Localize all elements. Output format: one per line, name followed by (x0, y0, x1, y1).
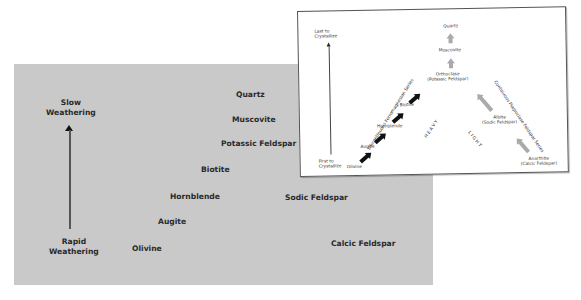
last-to-crystallize-label: Last to Crystallize (314, 28, 337, 39)
mineral-biotite: Biotite (201, 165, 230, 174)
black-arrow-icon (359, 154, 369, 164)
bowens-reaction-series-inset: Last to Crystallize First to Crystallize… (297, 6, 569, 177)
gray-arrow-icon (518, 140, 530, 153)
mineral-olivine: Olivine (347, 164, 362, 170)
rapid-weathering-label: Rapid Weathering (49, 237, 99, 257)
mineral-calcic-feldspar: Calcic Feldspar (331, 239, 395, 248)
mineral-olivine: Olivine (132, 244, 162, 253)
mineral-quartz: Quartz (236, 90, 265, 99)
mineral-potassic-feldspar: Potassic Feldspar (221, 139, 296, 148)
crystallize-axis-line (329, 46, 332, 154)
weathering-axis-line (69, 130, 71, 229)
light-label: L I G H T (467, 130, 483, 148)
discontinuous-series-label: Discontinuous Ferromagnesian Series (366, 78, 414, 151)
gray-arrow-up-icon (448, 37, 452, 43)
mineral-hornblende: Hornblende (170, 192, 220, 201)
gray-arrow-icon (478, 96, 493, 112)
mineral-albite: Albite (Sodic Feldspar) (482, 114, 517, 125)
first-to-crystallize-label: First to Crystallize (319, 158, 342, 169)
slow-weathering-label: Slow Weathering (46, 98, 96, 118)
heavy-label: H E A V Y (423, 119, 439, 139)
mineral-orthoclase: Orthoclase (Potassic Feldspar) (427, 71, 468, 83)
gray-arrow-up-icon (449, 62, 453, 68)
mineral-sodic-feldspar: Sodic Feldspar (285, 193, 348, 202)
mineral-augite: Augite (158, 217, 186, 226)
mineral-muscovite: Muscovite (232, 115, 276, 124)
mineral-muscovite: Muscovite (439, 47, 461, 53)
mineral-anorthite: Anorthite (Calcic Feldspar) (521, 155, 558, 166)
mineral-quartz: Quartz (443, 23, 458, 29)
